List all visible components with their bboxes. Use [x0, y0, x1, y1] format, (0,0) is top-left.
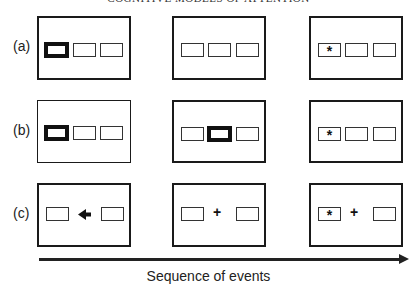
panel-c-interval: +: [172, 183, 266, 247]
row-label-a: (a): [13, 38, 30, 54]
box: [208, 43, 231, 57]
panel-b-cue: [37, 100, 131, 163]
panel-a-target: *: [309, 16, 403, 80]
box: [100, 43, 123, 57]
target-box: *: [318, 127, 341, 141]
box: [73, 43, 96, 57]
fixation-cross-icon: +: [350, 204, 358, 220]
panel-a-interval: [172, 16, 266, 80]
box: [181, 43, 204, 57]
fixation-cross-icon: +: [213, 204, 221, 220]
figure-header: COGNITIVE MODELS OF ATTENTION: [0, 0, 417, 4]
box: [100, 126, 123, 140]
timeline-arrowhead-icon: [399, 254, 409, 264]
box: [236, 207, 259, 221]
left-arrow-cue-icon: [78, 209, 92, 220]
cued-box: [44, 125, 69, 141]
row-label-c: (c): [13, 205, 29, 221]
cued-box: [207, 126, 232, 142]
target-box: *: [318, 207, 341, 221]
panel-c-target: * +: [309, 183, 403, 247]
target-box: *: [318, 43, 341, 57]
box: [345, 43, 368, 57]
box: [373, 43, 396, 57]
target-star-icon: *: [319, 43, 340, 59]
timeline-arrow-line: [39, 258, 401, 261]
box: [101, 207, 124, 221]
target-star-icon: *: [319, 127, 340, 143]
target-star-icon: *: [319, 207, 340, 223]
row-label-b: (b): [13, 122, 30, 138]
box: [236, 127, 259, 141]
panel-a-cue: [37, 16, 131, 80]
box: [181, 207, 204, 221]
timeline-label: Sequence of events: [0, 268, 417, 284]
cued-box: [44, 42, 69, 58]
box: [236, 43, 259, 57]
box: [373, 127, 396, 141]
panel-b-second-cue: [172, 100, 266, 163]
panel-b-target: *: [309, 100, 403, 163]
box: [345, 127, 368, 141]
box: [73, 126, 96, 140]
box: [46, 207, 69, 221]
box: [373, 207, 396, 221]
box: [181, 127, 204, 141]
panel-c-cue: [37, 183, 131, 247]
